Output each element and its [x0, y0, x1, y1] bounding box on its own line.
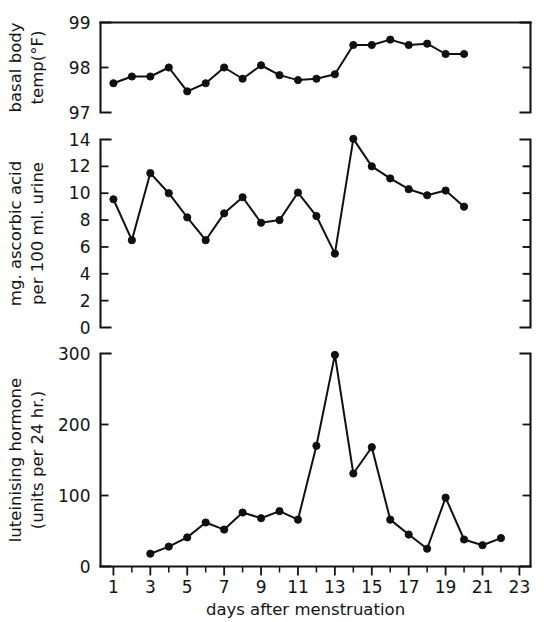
panel-top-data-point — [276, 72, 283, 79]
panel-top-data-point — [128, 73, 135, 80]
panel-middle-data-point — [276, 216, 283, 223]
panel-top-ylabel: basal body — [6, 22, 25, 112]
panel-bottom-ytick-label: 100 — [58, 486, 90, 506]
x-axis-tick-label: 9 — [256, 577, 267, 597]
panel-middle-data-point — [405, 186, 412, 193]
x-axis-tick-label: 23 — [509, 577, 531, 597]
x-axis-tick-label: 3 — [145, 577, 156, 597]
panel-top-ytick-label: 98 — [69, 58, 91, 78]
panel-top-data-point — [460, 50, 467, 57]
panel-top-data-point — [165, 64, 172, 71]
panel-middle-data-point — [350, 135, 357, 142]
panel-middle-ytick-label: 8 — [80, 210, 91, 230]
panel-bottom-data-point — [460, 536, 467, 543]
panel-top-ylabel: temp(°F) — [28, 31, 47, 105]
panel-middle-data-point — [424, 192, 431, 199]
panel-top-ytick-label: 99 — [69, 13, 91, 33]
x-axis-tick-label: 11 — [287, 577, 309, 597]
x-axis-tick-label: 19 — [435, 577, 457, 597]
panel-bottom-ylabel: (units per 24 hr.) — [28, 391, 47, 530]
panel-top-data-point — [257, 62, 264, 69]
panel-bottom-data-point — [368, 444, 375, 451]
panel-top-data-point — [424, 40, 431, 47]
panel-middle-data-point — [368, 163, 375, 170]
x-axis-tick-label: 13 — [324, 577, 346, 597]
panel-bottom-left-spine — [101, 354, 111, 567]
panel-bottom-data-point — [257, 515, 264, 522]
panel-middle-left-spine — [101, 140, 111, 328]
panel-middle-data-point — [165, 190, 172, 197]
panel-bottom-data-point — [202, 519, 209, 526]
panel-middle-ytick-label: 10 — [69, 183, 91, 203]
panel-bottom-data-point — [497, 535, 504, 542]
panel-top-data-point — [442, 50, 449, 57]
panel-middle-ylabel: mg. ascorbic acid — [6, 161, 25, 306]
x-axis-tick-label: 5 — [182, 577, 193, 597]
panel-middle-data-point — [387, 175, 394, 182]
panel-bottom-data-point — [147, 550, 154, 557]
panel-middle-ylabel: per 100 ml. urine — [28, 162, 47, 305]
x-axis-tick-label: 1 — [108, 577, 119, 597]
panel-top-data-point — [331, 71, 338, 78]
panel-top-data-point — [294, 77, 301, 84]
panel-top-data-point — [202, 80, 209, 87]
panel-top-data-point — [313, 75, 320, 82]
panel-top-data-point — [350, 41, 357, 48]
panel-top-data-point — [184, 88, 191, 95]
panel-top-data-point — [368, 41, 375, 48]
panel-bottom-ytick-label: 300 — [58, 344, 90, 364]
panel-middle-data-point — [313, 212, 320, 219]
panel-middle-ytick-label: 0 — [80, 318, 91, 338]
panel-bottom-data-point — [165, 543, 172, 550]
panel-bottom-data-point — [479, 542, 486, 549]
panel-top-ytick-label: 97 — [69, 103, 91, 123]
panel-bottom-data-point — [350, 470, 357, 477]
panel-middle-ytick-label: 14 — [69, 130, 91, 150]
panel-middle-data-point — [110, 196, 117, 203]
panel-middle-ytick-label: 6 — [80, 237, 91, 257]
panel-middle-data-point — [221, 210, 228, 217]
x-axis-title: days after menstruation — [206, 600, 405, 619]
panel-middle-data-point — [147, 169, 154, 176]
three-panel-chart: 979899basal bodytemp(°F)02468101214mg. a… — [0, 0, 554, 622]
panel-top-data-point — [147, 73, 154, 80]
panel-bottom-data-point — [239, 509, 246, 516]
panel-middle-ytick-label: 2 — [80, 291, 91, 311]
panel-bottom-data-point — [405, 531, 412, 538]
panel-middle-data-point — [184, 214, 191, 221]
panel-top-data-point — [387, 36, 394, 43]
panel-bottom-data-point — [331, 351, 338, 358]
panel-bottom-ytick-label: 0 — [80, 557, 91, 577]
panel-bottom-data-point — [221, 526, 228, 533]
x-axis-tick-label: 15 — [361, 577, 383, 597]
panel-bottom-data-point — [276, 508, 283, 515]
panel-bottom-ytick-label: 200 — [58, 415, 90, 435]
panel-bottom-data-point — [424, 545, 431, 552]
panel-middle-data-point — [128, 237, 135, 244]
panel-middle-data-point — [294, 189, 301, 196]
x-axis-tick-label: 17 — [398, 577, 420, 597]
x-axis-tick-label: 7 — [219, 577, 230, 597]
panel-top-data-point — [221, 64, 228, 71]
panel-middle-data-point — [331, 250, 338, 257]
panel-bottom-right-spine — [521, 354, 531, 567]
figure-container: 979899basal bodytemp(°F)02468101214mg. a… — [0, 0, 554, 622]
panel-middle-data-point — [460, 203, 467, 210]
panel-top-data-point — [239, 75, 246, 82]
panel-bottom-data-point — [313, 442, 320, 449]
panel-top-data-point — [110, 80, 117, 87]
panel-middle-data-point — [442, 187, 449, 194]
panel-middle-data-point — [202, 237, 209, 244]
panel-bottom-data-point — [442, 494, 449, 501]
panel-middle-data-point — [257, 219, 264, 226]
panel-middle-right-spine — [521, 140, 531, 328]
panel-middle-data-point — [239, 194, 246, 201]
panel-bottom-data-point — [184, 534, 191, 541]
panel-middle-ytick-label: 12 — [69, 156, 91, 176]
panel-bottom-ylabel: luteinising hormone — [6, 378, 25, 542]
panel-bottom-data-point — [294, 516, 301, 523]
panel-middle-ytick-label: 4 — [80, 264, 91, 284]
x-axis-tick-label: 21 — [472, 577, 494, 597]
panel-bottom-data-point — [387, 516, 394, 523]
panel-top-data-point — [405, 41, 412, 48]
